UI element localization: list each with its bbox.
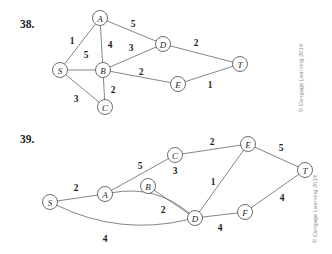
node-label-A: A <box>101 190 108 200</box>
node-E[interactable]: E <box>241 137 256 152</box>
edge-weight-B-C: 2 <box>111 85 116 95</box>
node-D[interactable]: D <box>156 37 171 52</box>
node-S[interactable]: S <box>53 63 68 78</box>
edge-S-C <box>66 75 99 102</box>
edge-D-F <box>202 213 237 217</box>
node-B[interactable]: B <box>96 63 111 78</box>
edge-weight-D-T: 2 <box>194 38 199 48</box>
edge-weight-B-D: 2 <box>161 205 166 215</box>
edge-B-D <box>154 190 189 214</box>
node-A[interactable]: A <box>93 11 108 26</box>
edge-weight-C-E: 2 <box>210 137 215 147</box>
edge-D-E <box>199 150 243 212</box>
edge-weight-F-T: 4 <box>280 193 285 203</box>
edge-weight-A-D: 3 <box>173 166 178 176</box>
node-label-D: D <box>191 214 199 224</box>
copyright-notice: © Cengage Learning 2014 <box>312 175 318 243</box>
edge-B-C <box>103 77 104 99</box>
node-label-E: E <box>174 80 181 90</box>
node-label-F: F <box>241 208 248 218</box>
edge-weight-B-D: 3 <box>129 43 134 53</box>
edge-weight-A-C: 5 <box>138 161 143 171</box>
edge-weight-D-F: 4 <box>218 223 223 233</box>
node-group: SABCDET <box>53 11 248 115</box>
node-T[interactable]: T <box>298 163 313 178</box>
node-label-S: S <box>48 198 53 208</box>
edge-weight-A-D: 5 <box>131 19 136 29</box>
edge-weight-S-D: 4 <box>103 234 108 244</box>
exercise-number-label: 38. <box>20 18 35 30</box>
node-label-C: C <box>172 151 179 161</box>
edge-weight-E-T: 1 <box>208 80 213 90</box>
node-label-C: C <box>102 103 109 113</box>
node-label-E: E <box>244 140 251 150</box>
node-F[interactable]: F <box>238 205 253 220</box>
figure-39: 39.2453221544SABCDEFT© Cengage Learning … <box>20 133 318 244</box>
graph-figures-canvas: 38.1534532221SABCDET© Cengage Learning 2… <box>0 0 332 254</box>
edge-weight-E-T: 5 <box>279 143 284 153</box>
edge-group: 1534532221 <box>65 19 233 104</box>
node-label-B: B <box>145 182 151 192</box>
copyright-notice: © Cengage Learning 2014 <box>298 44 304 112</box>
edge-weight-D-E: 1 <box>211 177 216 187</box>
node-label-D: D <box>159 40 167 50</box>
exercise-figure-container: 38.1534532221SABCDET© Cengage Learning 2… <box>0 0 332 254</box>
figure-38: 38.1534532221SABCDET© Cengage Learning 2… <box>20 11 304 115</box>
edge-weight-B-E: 2 <box>139 67 144 77</box>
node-label-S: S <box>58 66 63 76</box>
node-group: SABCDEFT <box>43 137 313 226</box>
node-B[interactable]: B <box>141 179 156 194</box>
node-C[interactable]: C <box>168 148 183 163</box>
edge-weight-S-A: 1 <box>70 36 75 46</box>
edge-F-T <box>251 174 299 207</box>
edge-E-T <box>255 147 298 167</box>
edge-S-A <box>57 195 97 201</box>
edge-weight-S-B: 5 <box>84 50 89 60</box>
node-E[interactable]: E <box>171 77 186 92</box>
node-C[interactable]: C <box>98 100 113 115</box>
edge-S-D <box>57 205 188 225</box>
svg-content-group: 38.1534532221SABCDET© Cengage Learning 2… <box>20 11 318 245</box>
node-label-B: B <box>100 66 106 76</box>
edge-D-T <box>170 46 232 62</box>
node-T[interactable]: T <box>233 57 248 72</box>
node-A[interactable]: A <box>98 187 113 202</box>
edge-weight-S-A: 2 <box>74 183 79 193</box>
exercise-number-label: 39. <box>20 133 35 145</box>
node-D[interactable]: D <box>188 211 203 226</box>
node-S[interactable]: S <box>43 195 58 210</box>
edge-A-B <box>100 25 102 62</box>
node-label-A: A <box>96 14 103 24</box>
edge-weight-S-C: 3 <box>74 94 79 104</box>
edge-weight-A-B: 4 <box>108 40 113 50</box>
edge-A-D <box>112 191 189 213</box>
